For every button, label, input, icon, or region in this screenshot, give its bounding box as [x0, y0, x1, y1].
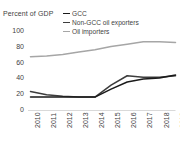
- series-line-gcc: [31, 75, 176, 97]
- plot-area: [0, 0, 180, 143]
- series-line-oil-importers: [31, 42, 176, 57]
- line-chart: Percent of GDP GCC Non-GCC oil exporters…: [0, 0, 180, 143]
